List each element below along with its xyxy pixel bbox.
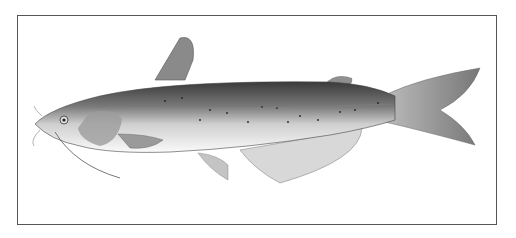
caudal-fin bbox=[385, 68, 480, 145]
pelvic-fin bbox=[198, 153, 228, 180]
dorsal-fin bbox=[155, 37, 193, 80]
barbel bbox=[34, 106, 42, 116]
catfish-illustration bbox=[0, 0, 516, 238]
barbel bbox=[33, 130, 40, 146]
